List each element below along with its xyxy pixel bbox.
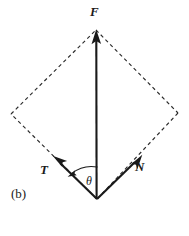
dashed-edge-left-top <box>11 30 96 114</box>
label-angle-theta: θ <box>86 175 92 187</box>
label-normal-N: N <box>135 160 144 173</box>
vector-diagram-svg <box>0 0 189 236</box>
vector-T-arrowhead <box>53 156 68 167</box>
angle-arc-theta <box>68 167 98 177</box>
vector-N-shaft <box>97 163 135 200</box>
angle-arc-path <box>72 167 97 174</box>
vector-F <box>92 30 102 200</box>
dashed-edge-top-right <box>96 30 178 113</box>
label-panel-b: (b) <box>11 187 26 200</box>
figure-panel-b: F T N θ (b) <box>0 0 189 236</box>
label-force-F: F <box>90 5 99 18</box>
label-tension-T: T <box>40 163 48 176</box>
dashed-parallelogram <box>11 30 178 199</box>
